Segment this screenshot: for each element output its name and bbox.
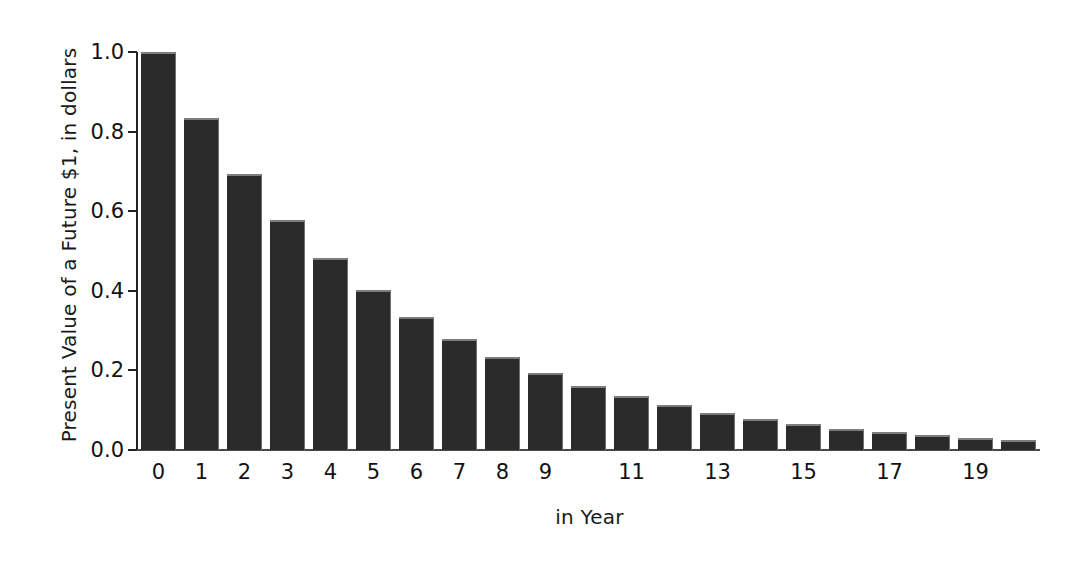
x-tick-label: 0 — [152, 462, 165, 483]
y-axis-title: Present Value of a Future $1, in dollars — [46, 10, 92, 480]
bar — [700, 413, 735, 450]
bar — [915, 435, 950, 450]
bar — [442, 339, 477, 450]
x-tick-label: 2 — [238, 462, 251, 483]
y-tick-mark — [128, 449, 137, 451]
bar — [356, 290, 391, 450]
bar — [313, 258, 348, 450]
bar — [872, 432, 907, 450]
x-tick-label: 9 — [539, 462, 552, 483]
bar — [786, 424, 821, 450]
y-tick-label: 0.6 — [91, 201, 124, 222]
y-tick-label: 0.2 — [91, 360, 124, 381]
y-tick-mark — [128, 210, 137, 212]
bar — [184, 118, 219, 450]
bar — [657, 405, 692, 450]
x-tick-label: 7 — [453, 462, 466, 483]
y-tick-label: 0.8 — [91, 121, 124, 142]
x-tick-label: 3 — [281, 462, 294, 483]
y-tick-label: 1.0 — [91, 42, 124, 63]
x-tick-label: 15 — [790, 462, 817, 483]
x-tick-label: 19 — [962, 462, 989, 483]
x-tick-label: 17 — [876, 462, 903, 483]
y-tick-mark — [128, 51, 137, 53]
x-tick-label: 4 — [324, 462, 337, 483]
bar — [571, 386, 606, 450]
figure-canvas: Present Value of a Future $1, in dollars… — [0, 0, 1088, 569]
y-tick-mark — [128, 369, 137, 371]
plot-area: 0.00.20.40.60.81.0 — [137, 52, 1040, 450]
bar — [141, 52, 176, 450]
x-tick-label: 13 — [704, 462, 731, 483]
x-tick-label: 8 — [496, 462, 509, 483]
bar — [614, 396, 649, 450]
x-axis-title: in Year — [137, 505, 1042, 529]
bar — [270, 220, 305, 450]
bar — [958, 438, 993, 450]
bar — [528, 373, 563, 450]
bar — [743, 419, 778, 450]
x-tick-label: 1 — [195, 462, 208, 483]
y-tick-mark — [128, 131, 137, 133]
y-tick-mark — [128, 290, 137, 292]
bar — [485, 357, 520, 450]
bar — [1001, 440, 1036, 450]
bar — [829, 429, 864, 450]
bar — [227, 174, 262, 450]
x-tick-label: 5 — [367, 462, 380, 483]
y-tick-label: 0.4 — [91, 280, 124, 301]
bar — [399, 317, 434, 450]
x-tick-label: 6 — [410, 462, 423, 483]
y-tick-label: 0.0 — [91, 440, 124, 461]
x-tick-label: 11 — [618, 462, 645, 483]
